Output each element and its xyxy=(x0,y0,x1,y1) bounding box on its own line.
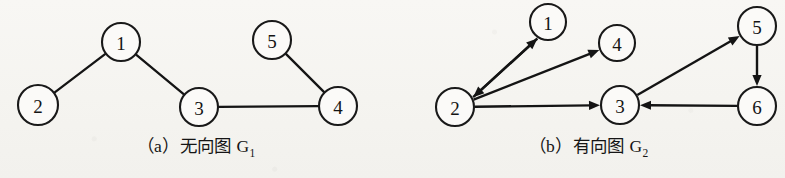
caption-panel-b: （b）有向图 G2 xyxy=(392,132,785,159)
node-label-6: 6 xyxy=(752,97,762,118)
graph-node-1: 1 xyxy=(530,4,566,40)
graph-node-3: 3 xyxy=(601,86,639,124)
graph-figure: 12345 （a）无向图 G1 123456 （b）有向图 G2 xyxy=(0,0,785,178)
node-label-3: 3 xyxy=(615,96,625,117)
graph-edge-6-to-3 xyxy=(649,105,737,106)
graph-edge-1-3 xyxy=(136,55,183,94)
graph-edge-5-4 xyxy=(286,54,324,92)
graph-edge-2-to-4 xyxy=(474,53,591,99)
graph-edge-1-to-2 xyxy=(480,39,538,92)
arrow-head-icon-5-to-6 xyxy=(752,75,761,86)
graph-node-4: 4 xyxy=(599,25,635,61)
caption-b-subscript: 2 xyxy=(643,147,649,159)
node-label-1: 1 xyxy=(116,33,126,54)
graph-node-3: 3 xyxy=(180,88,218,126)
graph-edge-2-to-3 xyxy=(475,105,591,106)
graph-edge-3-4 xyxy=(219,106,318,107)
node-label-2: 2 xyxy=(33,96,43,117)
node-label-5: 5 xyxy=(752,17,762,38)
directed-graph-canvas: 123456 xyxy=(392,0,785,132)
graph-node-2: 2 xyxy=(436,88,474,126)
graph-node-1: 1 xyxy=(102,23,140,61)
node-label-4: 4 xyxy=(612,34,622,55)
graph-node-6: 6 xyxy=(738,87,776,125)
arrow-head-icon-2-to-3 xyxy=(589,101,600,110)
graph-edge-1-2 xyxy=(55,54,105,92)
caption-a-subscript: 1 xyxy=(250,147,256,159)
panel-undirected-graph: 12345 （a）无向图 G1 xyxy=(0,0,392,178)
graph-node-5: 5 xyxy=(253,21,291,59)
caption-a-text: （a）无向图 G xyxy=(137,136,250,156)
undirected-graph-canvas: 12345 xyxy=(0,0,392,132)
graph-node-4: 4 xyxy=(319,87,357,125)
arrow-head-icon-6-to-3 xyxy=(640,101,651,110)
node-label-5: 5 xyxy=(267,31,277,52)
arrow-head-icon-2-to-4 xyxy=(587,50,599,59)
graph-node-2: 2 xyxy=(18,85,58,125)
node-label-3: 3 xyxy=(194,98,204,119)
caption-panel-a: （a）无向图 G1 xyxy=(0,132,392,159)
node-label-1: 1 xyxy=(543,13,553,34)
node-label-2: 2 xyxy=(450,98,460,119)
caption-b-text: （b）有向图 G xyxy=(529,136,643,156)
graph-node-5: 5 xyxy=(738,7,776,45)
graph-edge-3-to-5 xyxy=(637,40,732,95)
panel-directed-graph: 123456 （b）有向图 G2 xyxy=(392,0,785,178)
node-label-4: 4 xyxy=(333,97,343,118)
